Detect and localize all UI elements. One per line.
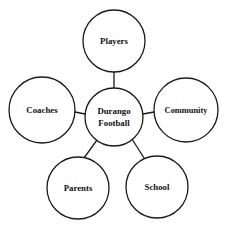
node-school[interactable]: School	[126, 156, 188, 218]
node-label-durango-football-line1: Durango	[97, 106, 131, 116]
diagram-canvas: Players Community School Parents Coaches…	[0, 0, 227, 227]
node-circle-durango-football[interactable]	[85, 88, 143, 146]
node-label-parents: Parents	[64, 183, 93, 193]
node-label-community: Community	[165, 106, 209, 115]
edge-center-to-community	[143, 112, 154, 114]
node-label-school: School	[145, 182, 170, 192]
node-label-players: Players	[100, 36, 128, 46]
node-durango-football[interactable]: Durango Football	[85, 88, 143, 146]
node-players[interactable]: Players	[83, 10, 145, 72]
edge-center-to-coaches	[75, 112, 85, 114]
cluster-diagram: Players Community School Parents Coaches…	[0, 0, 227, 227]
node-label-durango-football-line2: Football	[98, 118, 130, 128]
node-coaches[interactable]: Coaches	[9, 77, 75, 143]
node-parents[interactable]: Parents	[47, 157, 109, 219]
node-label-coaches: Coaches	[26, 105, 58, 115]
edge-center-to-school	[132, 139, 144, 158]
node-community[interactable]: Community	[154, 78, 218, 142]
edge-center-to-parents	[84, 140, 97, 158]
